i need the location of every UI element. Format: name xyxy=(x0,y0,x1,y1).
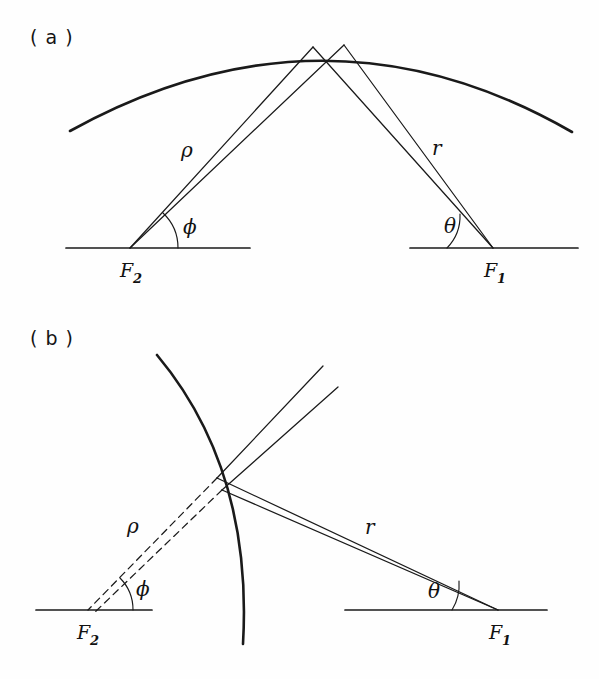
panel-b-focus-right-subscript: 1 xyxy=(502,633,511,648)
panel-b: ( b ) ρ r ϕ θ F xyxy=(30,327,547,648)
panel-a-focus-left-label: F 2 xyxy=(119,259,142,286)
panel-b-label-rho: ρ xyxy=(126,514,139,538)
panel-b-label-r: r xyxy=(365,515,376,539)
panel-b-label-phi: ϕ xyxy=(136,577,150,601)
panel-a-focus-right-letter: F xyxy=(483,259,498,281)
panel-a-focus-right-label: F 1 xyxy=(483,259,506,286)
panel-a-label-phi: ϕ xyxy=(183,215,197,239)
panel-a-angle-arc-phi xyxy=(163,213,178,248)
panel-b-label-theta: θ xyxy=(428,579,440,603)
panel-b-focus-left-label: F 2 xyxy=(76,621,99,648)
panel-a-surface-arc xyxy=(70,61,572,132)
panel-b-focus-left-letter: F xyxy=(76,621,91,643)
panel-a-ray-r-inner xyxy=(344,45,493,248)
panel-b-ray-up-inner xyxy=(222,387,338,490)
panel-a-ray-rho-outer xyxy=(130,45,344,248)
panel-b-focus-left-subscript: 2 xyxy=(89,633,99,648)
panel-a: ( a ) ρ r ϕ θ F 2 xyxy=(30,26,578,286)
panel-b-ray-up-outer xyxy=(217,366,323,478)
panel-b-surface-arc xyxy=(157,355,244,644)
panel-b-focus-right-label: F 1 xyxy=(488,621,511,648)
panel-b-ray-r-inner xyxy=(222,490,498,610)
panel-b-focus-right-letter: F xyxy=(488,621,503,643)
figure-page: ( a ) ρ r ϕ θ F 2 xyxy=(0,0,599,679)
panel-a-label: ( a ) xyxy=(30,26,74,48)
panel-b-angle-arc-phi xyxy=(120,578,133,610)
panel-b-ray-r-outer xyxy=(217,478,498,610)
panel-a-ray-rho-inner xyxy=(130,47,313,248)
panel-a-label-r: r xyxy=(432,136,443,160)
figure-canvas: ( a ) ρ r ϕ θ F 2 xyxy=(0,0,599,679)
panel-a-focus-left-subscript: 2 xyxy=(132,271,142,286)
panel-a-label-theta: θ xyxy=(444,214,456,238)
panel-b-label: ( b ) xyxy=(30,327,74,349)
panel-b-virtual-ray-inner xyxy=(93,490,222,614)
panel-a-ray-r-outer xyxy=(313,47,493,248)
panel-a-focus-right-subscript: 1 xyxy=(497,271,506,286)
panel-a-label-rho: ρ xyxy=(180,138,193,162)
panel-b-virtual-ray-outer xyxy=(88,478,217,610)
panel-a-focus-left-letter: F xyxy=(119,259,134,281)
panel-b-angle-arc-theta xyxy=(452,581,459,610)
